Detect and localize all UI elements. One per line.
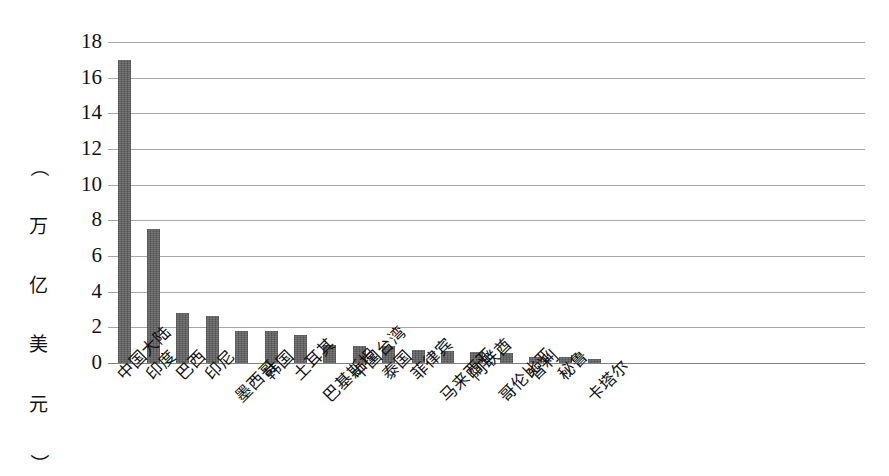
y-axis-tick-label: 12 — [68, 138, 102, 159]
y-axis-title-char: （ — [28, 147, 48, 187]
gridline — [108, 149, 865, 150]
y-axis-tick-label: 6 — [68, 245, 102, 266]
gridline — [108, 220, 865, 221]
gridline — [108, 185, 865, 186]
y-axis-tick-label: 10 — [68, 174, 102, 195]
x-axis-tick-label: 卡塔尔 — [584, 357, 632, 405]
y-axis-tick-label: 18 — [68, 31, 102, 52]
bar-chart-figure: （ 万 亿 美 元 ） 181614121086420 中国大陆印度巴西印尼墨西… — [0, 0, 889, 476]
gridline — [108, 327, 865, 328]
gridline — [108, 256, 865, 257]
gridline — [108, 78, 865, 79]
y-axis-tick-label: 4 — [68, 281, 102, 302]
gridline — [108, 292, 865, 293]
bar — [118, 60, 131, 363]
plot-area — [108, 42, 865, 363]
y-axis-tick-label: 0 — [68, 352, 102, 373]
y-axis-tick-labels: 181614121086420 — [52, 42, 102, 363]
y-axis-tick-label: 14 — [68, 102, 102, 123]
gridline — [108, 42, 865, 43]
gridline — [108, 113, 865, 114]
y-axis-tick-label: 2 — [68, 316, 102, 337]
y-axis-tick-label: 8 — [68, 209, 102, 230]
y-axis-title-char: 元 — [18, 395, 58, 415]
y-axis-tick-label: 16 — [68, 67, 102, 88]
y-axis-title-char: ） — [28, 444, 48, 476]
x-axis-tick-labels: 中国大陆印度巴西印尼墨西哥韩国土耳其巴基斯坦中国台湾泰国菲律宾马来西亚阿联酋哥伦… — [108, 363, 889, 476]
